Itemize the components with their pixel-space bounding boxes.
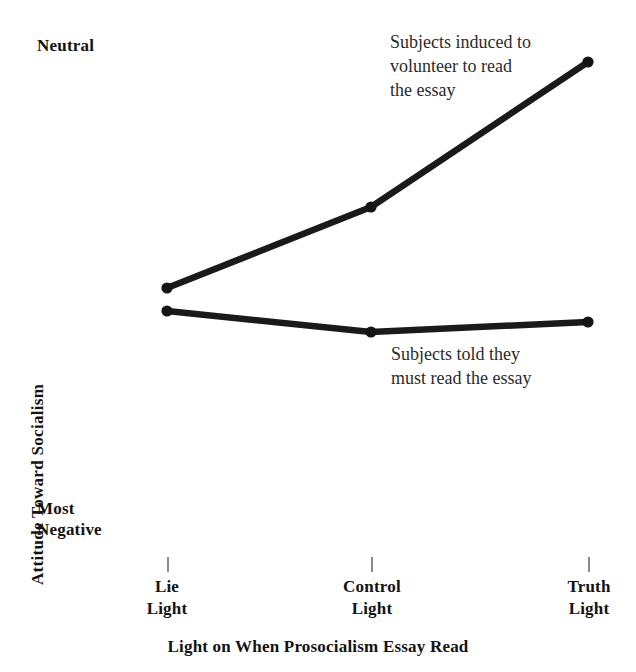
x-axis-tick-layer — [0, 0, 636, 672]
x-axis-title: Light on When Prosocialism Essay Read — [0, 637, 636, 657]
x-tick-label-lie: Lie Light — [97, 576, 237, 620]
x-tick-label-truth: Truth Light — [519, 576, 636, 620]
chart-figure: Neutral Most Negative Attitude Toward So… — [0, 0, 636, 672]
x-tick-label-control: Control Light — [302, 576, 442, 620]
